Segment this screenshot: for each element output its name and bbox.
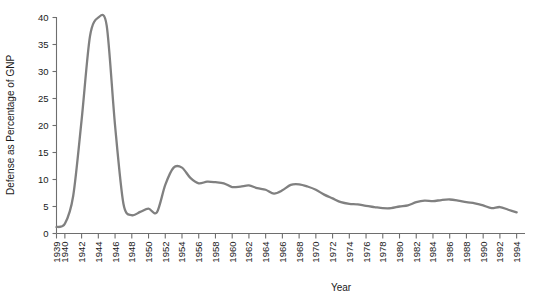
x-tick-label: 1984 <box>427 242 438 263</box>
chart-canvas: 0510152025303540 19391940194219441946194… <box>0 0 541 298</box>
x-axis-group: 1939194019421944194619481950195219541956… <box>51 234 525 263</box>
x-tick-label: 1954 <box>176 242 187 263</box>
x-tick-label: 1952 <box>160 242 171 263</box>
x-tick-label: 1960 <box>227 242 238 263</box>
y-tick-label: 30 <box>38 66 49 77</box>
y-tick-label: 15 <box>38 147 49 158</box>
x-tick-label: 1972 <box>327 242 338 263</box>
x-tick-label: 1982 <box>411 242 422 263</box>
x-axis-ticks <box>57 234 517 239</box>
x-tick-label: 1978 <box>377 242 388 263</box>
x-tick-label: 1990 <box>478 242 489 263</box>
y-tick-label: 25 <box>38 93 49 104</box>
y-tick-label: 20 <box>38 120 49 131</box>
y-axis-group: 0510152025303540 <box>38 12 57 239</box>
x-axis-tick-labels: 1939194019421944194619481950195219541956… <box>51 242 522 263</box>
x-tick-label: 1970 <box>310 242 321 263</box>
x-tick-label: 1994 <box>511 242 522 263</box>
x-tick-label: 1976 <box>361 242 372 263</box>
x-tick-label: 1942 <box>76 242 87 263</box>
x-tick-label: 1992 <box>494 242 505 263</box>
x-tick-label: 1964 <box>260 242 271 263</box>
x-tick-label: 1962 <box>243 242 254 263</box>
x-tick-label: 1974 <box>344 242 355 263</box>
y-axis-title: Defense as Percentage of GNP <box>5 55 16 195</box>
y-tick-label: 40 <box>38 12 49 23</box>
x-tick-label: 1956 <box>193 242 204 263</box>
x-tick-label: 1980 <box>394 242 405 263</box>
x-tick-label: 1966 <box>277 242 288 263</box>
series-line-defense-gnp <box>57 15 517 227</box>
x-tick-label: 1944 <box>93 242 104 263</box>
x-tick-label: 1946 <box>110 242 121 263</box>
y-tick-label: 35 <box>38 39 49 50</box>
y-axis-ticks <box>53 18 57 234</box>
y-tick-label: 10 <box>38 174 49 185</box>
x-tick-label: 1958 <box>210 242 221 263</box>
y-tick-label: 5 <box>43 201 48 212</box>
x-axis-title: Year <box>331 282 352 293</box>
x-tick-label: 1940 <box>59 242 70 263</box>
x-tick-label: 1948 <box>126 242 137 263</box>
x-tick-label: 1988 <box>461 242 472 263</box>
defense-spending-chart: 0510152025303540 19391940194219441946194… <box>0 0 541 298</box>
x-tick-label: 1968 <box>294 242 305 263</box>
y-tick-label: 0 <box>43 228 48 239</box>
x-tick-label: 1950 <box>143 242 154 263</box>
x-tick-label: 1986 <box>444 242 455 263</box>
y-axis-tick-labels: 0510152025303540 <box>38 12 49 239</box>
